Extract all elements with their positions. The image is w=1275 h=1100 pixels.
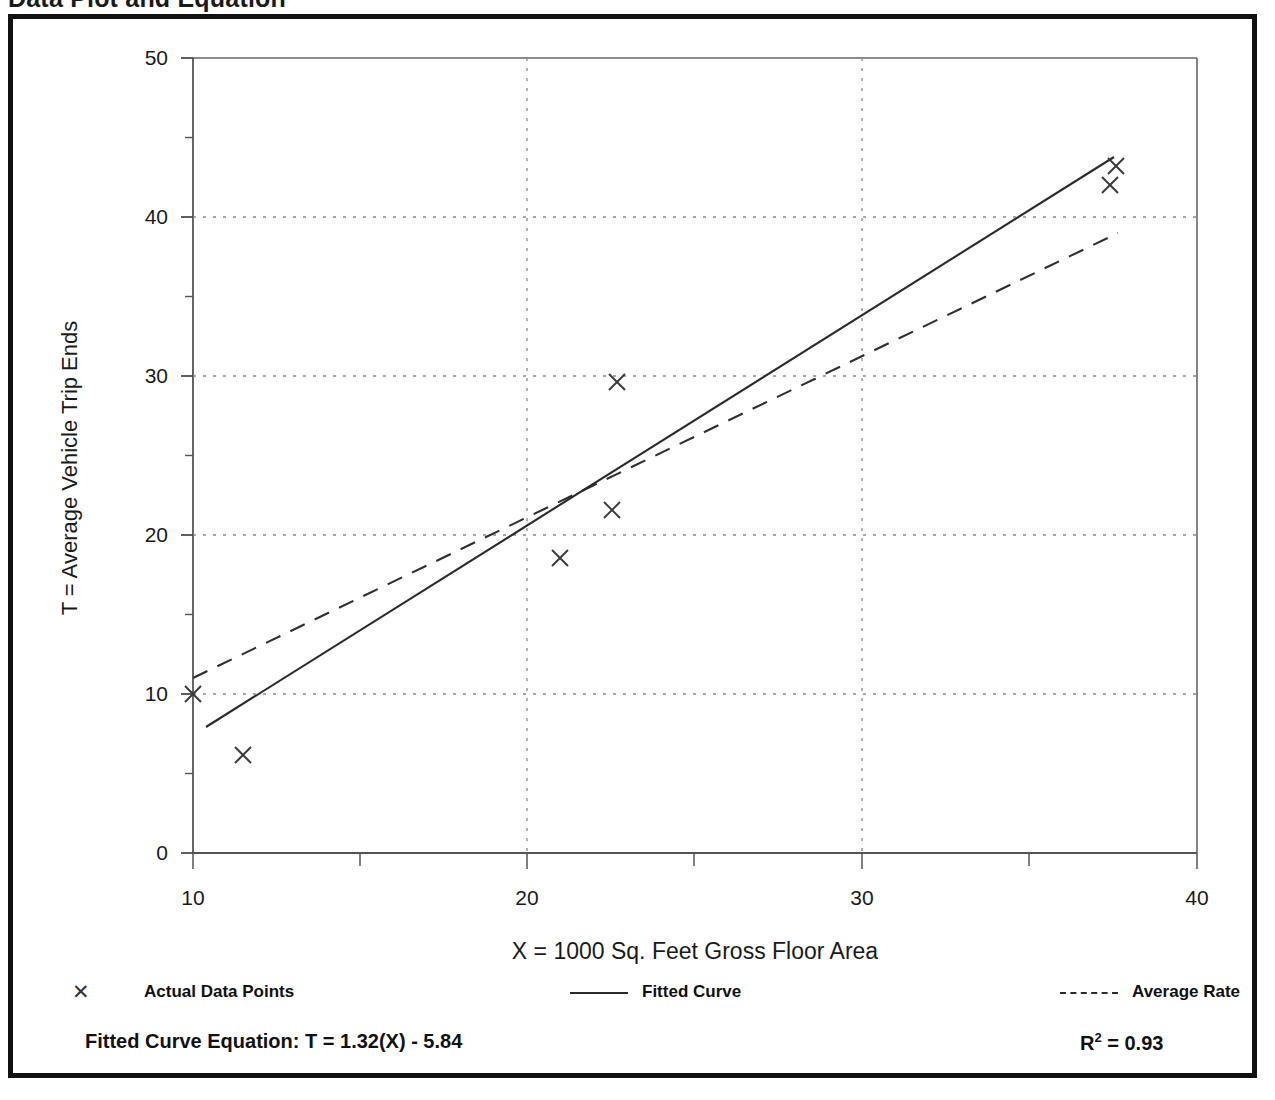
legend-label: Fitted Curve	[642, 982, 741, 1002]
equation-row: Fitted Curve Equation: T = 1.32(X) - 5.8…	[60, 1030, 1230, 1064]
figure-frame	[8, 14, 1257, 1078]
legend-item-average-rate: Average Rate	[1060, 975, 1240, 1009]
y-tick-label-10: 10	[108, 682, 168, 706]
r-equals-value: = 0.93	[1102, 1032, 1164, 1054]
legend-item-actual-data-points: ✕ Actual Data Points	[72, 975, 294, 1009]
solid-line-icon	[570, 983, 628, 1001]
legend-label: Actual Data Points	[144, 982, 294, 1002]
r-letter: R	[1080, 1032, 1094, 1054]
legend-item-fitted-curve: Fitted Curve	[570, 975, 741, 1009]
dashed-line-icon	[1060, 983, 1118, 1001]
y-axis-title: T = Average Vehicle Trip Ends	[57, 238, 83, 698]
y-tick-label-50: 50	[108, 46, 168, 70]
y-tick-label-20: 20	[108, 523, 168, 547]
r-exponent: 2	[1094, 1030, 1101, 1045]
legend-label: Average Rate	[1132, 982, 1240, 1002]
x-axis-title: X = 1000 Sq. Feet Gross Floor Area	[193, 938, 1197, 965]
x-tick-label-30: 30	[827, 886, 897, 910]
fitted-curve-equation: Fitted Curve Equation: T = 1.32(X) - 5.8…	[85, 1030, 462, 1053]
y-tick-label-40: 40	[108, 205, 168, 229]
r-squared-value: R2 = 0.93	[1080, 1030, 1163, 1055]
x-marker-icon: ✕	[72, 983, 130, 1001]
y-tick-label-30: 30	[108, 364, 168, 388]
x-tick-label-40: 40	[1162, 886, 1232, 910]
x-tick-label-20: 20	[492, 886, 562, 910]
chart-legend: ✕ Actual Data Points Fitted Curve Averag…	[60, 975, 1230, 1009]
page-title: Data Plot and Equation	[8, 0, 286, 13]
x-tick-label-10: 10	[158, 886, 228, 910]
y-tick-label-0: 0	[108, 841, 168, 865]
